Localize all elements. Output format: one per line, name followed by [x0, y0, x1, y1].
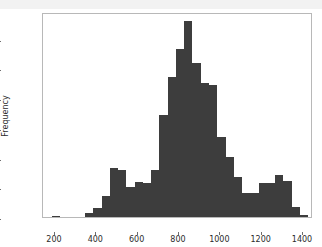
- histogram-bar: [234, 177, 242, 217]
- histogram-bar: [159, 115, 167, 217]
- histogram-bar: [192, 63, 200, 217]
- x-tick-label: 200: [46, 236, 61, 244]
- histogram-bar: [110, 168, 118, 217]
- y-tick-mark: [0, 160, 1, 161]
- x-tick-label: 1400: [292, 236, 312, 244]
- y-tick-mark: [0, 189, 1, 190]
- histogram-bar: [118, 170, 126, 217]
- x-tick-label: 800: [170, 236, 185, 244]
- histogram-bar: [102, 196, 110, 217]
- histogram-bar: [135, 182, 143, 217]
- histogram-bar: [283, 181, 291, 217]
- y-tick-mark: [0, 70, 1, 71]
- histogram-bar: [242, 193, 250, 217]
- x-tick-label: 600: [129, 236, 144, 244]
- histogram-bars: [43, 14, 311, 217]
- y-tick-mark: [0, 100, 1, 101]
- y-tick-mark: [0, 130, 1, 131]
- histogram-bar: [275, 175, 283, 217]
- figure-top-band: [0, 0, 322, 9]
- histogram-bar: [151, 170, 159, 217]
- x-tick-label: 400: [88, 236, 103, 244]
- plot-area: 050100150200250300 200400600800100012001…: [42, 13, 312, 218]
- histogram-bar: [168, 77, 176, 217]
- histogram-bar: [292, 207, 300, 217]
- x-tick-label: 1000: [209, 236, 229, 244]
- y-tick-mark: [0, 41, 1, 42]
- histogram-bar: [267, 183, 275, 217]
- y-tick-mark: [0, 219, 1, 220]
- histogram-bar: [52, 216, 60, 217]
- histogram-bar: [259, 183, 267, 217]
- histogram-bar: [209, 85, 217, 217]
- figure-canvas: Frequency 050100150200250300 20040060080…: [0, 0, 322, 247]
- histogram-bar: [176, 49, 184, 217]
- histogram-bar: [300, 215, 308, 217]
- y-axis-label: Frequency: [2, 95, 10, 136]
- histogram-bar: [217, 137, 225, 217]
- histogram-bar: [85, 213, 93, 217]
- histogram-bar: [201, 83, 209, 217]
- histogram-bar: [250, 193, 258, 217]
- histogram-bar: [93, 208, 101, 217]
- histogram-bar: [226, 157, 234, 217]
- histogram-bar: [143, 183, 151, 217]
- histogram-bar: [126, 187, 134, 217]
- x-tick-label: 1200: [251, 236, 271, 244]
- histogram-bar: [184, 21, 192, 217]
